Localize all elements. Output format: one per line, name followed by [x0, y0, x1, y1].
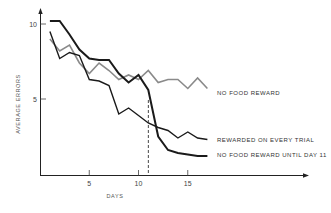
x-axis-title: DAYS	[107, 193, 124, 199]
series-line-no-food-reward-until-day-11	[50, 21, 208, 156]
legend-label: NO FOOD REWARD UNTIL DAY 11	[217, 152, 327, 158]
legend-label: REWARDED ON EVERY TRIAL	[217, 137, 314, 143]
series-line-no-food-reward	[50, 39, 208, 89]
line-chart: 51015510 DAYS AVERAGE ERRORS NO FOOD REW…	[0, 0, 331, 213]
y-axis-arrow-icon	[38, 8, 42, 14]
y-tick-label: 10	[29, 21, 37, 28]
x-tick-label: 5	[87, 180, 91, 187]
x-axis-arrow-icon	[303, 173, 309, 177]
plot-lines	[50, 21, 208, 156]
legend: NO FOOD REWARDREWARDED ON EVERY TRIALNO …	[217, 90, 327, 158]
y-axis-title: AVERAGE ERRORS	[15, 74, 21, 134]
y-tick-label: 5	[33, 96, 37, 103]
ticks: 51015510	[29, 21, 192, 188]
legend-label: NO FOOD REWARD	[217, 90, 280, 96]
x-tick-label: 10	[135, 180, 143, 187]
x-tick-label: 15	[184, 180, 192, 187]
